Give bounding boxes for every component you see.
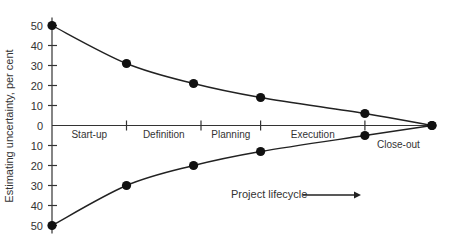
phase-label-execution: Execution [291, 129, 335, 140]
y-tick-label: 20 [31, 160, 43, 172]
y-tick-label: 50 [31, 220, 43, 232]
data-point-upper-2 [189, 79, 198, 88]
y-tick-label: 0 [37, 120, 43, 132]
data-point-upper-4 [360, 109, 369, 118]
series-line-upper [52, 26, 432, 126]
series-line-lower [52, 126, 432, 226]
data-point-lower-2 [189, 161, 198, 170]
data-point-upper-1 [122, 59, 131, 68]
y-tick-label: 30 [31, 180, 43, 192]
phase-label-definition: Definition [143, 129, 185, 140]
data-point-lower-4 [360, 131, 369, 140]
phase-label-close-out: Close-out [377, 139, 420, 150]
uncertainty-funnel-chart: 504030201001020304050Start-upDefinitionP… [0, 0, 450, 251]
data-point-lower-5 [427, 121, 436, 130]
data-point-lower-0 [47, 221, 56, 230]
y-tick-label: 10 [31, 100, 43, 112]
data-point-upper-0 [47, 21, 56, 30]
axes [48, 18, 432, 234]
phase-label-start-up: Start-up [71, 129, 107, 140]
y-tick-label: 50 [31, 20, 43, 32]
y-tick-label: 20 [31, 80, 43, 92]
data-point-lower-3 [256, 147, 265, 156]
y-axis-title: Estimating uncertainty, per cent [3, 49, 15, 202]
y-tick-label: 10 [31, 140, 43, 152]
y-tick-label: 30 [31, 60, 43, 72]
arrow-head-icon [354, 192, 361, 199]
phase-label-planning: Planning [211, 129, 250, 140]
data-point-upper-3 [256, 93, 265, 102]
lifecycle-arrow [303, 192, 361, 199]
y-tick-label: 40 [31, 40, 43, 52]
y-tick-label: 40 [31, 200, 43, 212]
annotation-project-lifecycle: Project lifecycle [231, 188, 307, 200]
data-point-lower-1 [122, 181, 131, 190]
